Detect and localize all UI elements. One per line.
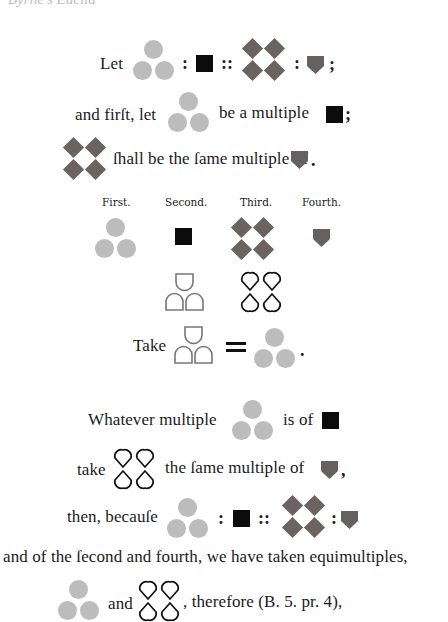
shield-icon	[312, 228, 331, 248]
ratio-colon: :	[182, 53, 188, 73]
black-square-icon	[326, 106, 343, 123]
ratio-colon: :	[331, 508, 337, 528]
line2-lead-text: and firſt, let	[75, 105, 156, 125]
period: .	[300, 340, 305, 360]
proportion-sign: ::	[258, 508, 270, 528]
shield-icon	[320, 460, 339, 480]
black-square-icon	[175, 228, 192, 245]
four-diamonds-icon	[63, 137, 107, 181]
let-text: Let	[100, 54, 123, 74]
running-header-cutoff: Byrne's Euclid	[8, 0, 96, 8]
ratio-colon: :	[218, 508, 224, 528]
shield-icon	[290, 150, 309, 170]
take-text: Take	[133, 336, 166, 356]
equals-bar-top	[226, 342, 246, 345]
period: .	[311, 150, 316, 170]
whatever-mid-text: is of	[283, 410, 313, 430]
comma: ,	[341, 460, 346, 480]
label-fourth: Fourth.	[302, 196, 341, 208]
semicolon: ;	[345, 104, 351, 124]
four-teardrops-outline-icon	[138, 580, 182, 622]
four-teardrops-outline-icon	[240, 271, 284, 313]
four-teardrops-outline-icon	[113, 448, 157, 490]
three-circles-icon	[168, 92, 210, 134]
therefore-text: , therefore (B. 5. pr. 4),	[183, 592, 342, 612]
shield-icon	[306, 55, 325, 75]
three-circles-icon	[254, 328, 296, 370]
last-and-text: and	[108, 594, 133, 614]
three-circles-icon	[133, 40, 175, 82]
three-circles-icon	[167, 498, 209, 540]
four-diamonds-icon	[242, 38, 286, 82]
three-arches-outline-icon	[164, 272, 206, 312]
because-lead-text: then, becauſe	[67, 507, 158, 527]
line3-text: ſhall be the ſame multiple of	[113, 149, 308, 169]
black-square-icon	[196, 55, 213, 72]
black-square-icon	[322, 412, 339, 429]
equimultiples-text: and of the ſecond and fourth, we have ta…	[3, 547, 408, 567]
ratio-colon: :	[294, 53, 300, 73]
whatever-lead-text: Whatever multiple	[88, 410, 217, 430]
four-diamonds-icon	[231, 217, 275, 261]
three-circles-icon	[232, 400, 274, 442]
semicolon: ;	[329, 54, 335, 74]
proportion-sign: ::	[221, 53, 233, 73]
label-first: First.	[102, 196, 131, 208]
three-circles-icon	[95, 218, 137, 260]
shield-icon	[340, 510, 359, 530]
black-square-icon	[233, 510, 250, 527]
label-third: Third.	[240, 196, 272, 208]
three-arches-outline-icon	[173, 325, 215, 365]
label-second: Second.	[165, 196, 207, 208]
take2-mid-text: the ſame multiple of	[165, 458, 304, 478]
take2-text: take	[77, 460, 106, 480]
three-circles-icon	[58, 580, 100, 622]
four-diamonds-icon	[282, 495, 326, 539]
line2-mid-text: be a multiple	[219, 103, 309, 123]
equals-bar-bottom	[226, 349, 246, 352]
